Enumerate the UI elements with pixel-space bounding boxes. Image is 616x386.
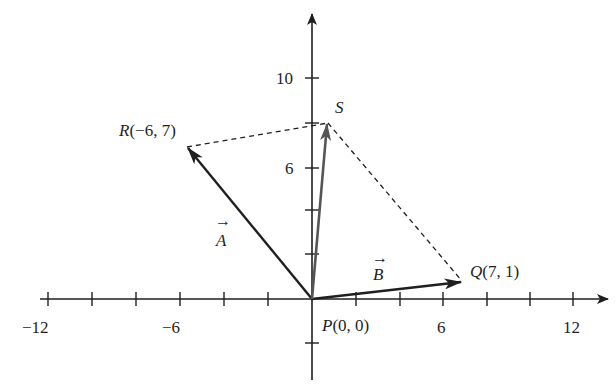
y-tick-label-10: 10 (276, 69, 293, 88)
arrow-over-B-icon: → (372, 249, 388, 266)
point-label-R: R(−6, 7) (118, 121, 176, 140)
vector-A-name: A (215, 231, 227, 250)
x-tick-label-12: 12 (563, 318, 580, 337)
x-tick-label-neg6: −6 (162, 318, 180, 337)
y-axis: 10 6 (276, 14, 319, 380)
point-Q-coords: (7, 1) (482, 262, 519, 281)
vector-label-B: → B (372, 249, 388, 284)
point-R-name: R (118, 121, 130, 140)
vector-B-name: B (373, 265, 384, 284)
point-R-coords: (−6, 7) (129, 121, 175, 140)
vector-B (312, 282, 461, 299)
vector-S (312, 124, 327, 299)
vector-diagram: −12 −6 6 12 10 6 → A → B R(−6, 7) (0, 0, 616, 386)
point-label-Q: Q(7, 1) (470, 262, 519, 281)
point-label-P: P(0, 0) (321, 316, 369, 335)
point-P-coords: (0, 0) (332, 316, 369, 335)
point-P-name: P (321, 316, 332, 335)
y-tick-label-6: 6 (285, 159, 294, 178)
x-tick-label-neg12: −12 (22, 318, 49, 337)
dashed-segment-S-Q (328, 123, 462, 281)
point-Q-name: Q (470, 262, 482, 281)
point-label-S: S (335, 98, 344, 117)
dashed-segment-R-S (187, 123, 328, 147)
x-tick-label-6: 6 (437, 318, 446, 337)
arrow-over-A-icon: → (215, 212, 231, 229)
vector-label-A: → A (215, 212, 231, 250)
